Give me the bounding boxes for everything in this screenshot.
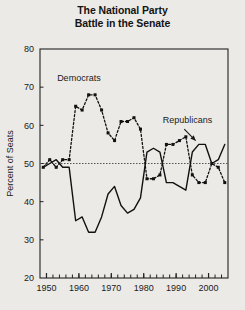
series-marker-democrats — [68, 158, 71, 161]
series-marker-democrats — [133, 116, 136, 119]
republicans-label: Republicans — [163, 115, 213, 125]
series-marker-democrats — [55, 166, 58, 169]
series-marker-democrats — [158, 173, 161, 176]
series-marker-democrats — [87, 93, 90, 96]
series-marker-democrats — [165, 143, 168, 146]
y-tick-label: 40 — [24, 197, 34, 207]
y-tick-label: 70 — [24, 82, 34, 92]
y-tick-label: 30 — [24, 235, 34, 245]
chart-title-line2: Battle in the Senate — [0, 17, 245, 30]
series-marker-democrats — [197, 181, 200, 184]
y-tick-label: 20 — [24, 273, 34, 283]
series-marker-democrats — [139, 128, 142, 131]
series-marker-democrats — [74, 105, 77, 108]
chart-title: The National Party Battle in the Senate — [0, 4, 245, 30]
chart-title-line1: The National Party — [0, 4, 245, 17]
x-tick-label: 1980 — [134, 283, 154, 293]
y-tick-label: 50 — [24, 159, 34, 169]
series-marker-democrats — [145, 177, 148, 180]
line-chart-plot: 20304050607080195019601970198019902000Pe… — [0, 0, 245, 310]
y-tick-label: 80 — [24, 44, 34, 54]
series-marker-democrats — [223, 181, 226, 184]
series-marker-democrats — [126, 120, 129, 123]
series-marker-democrats — [120, 120, 123, 123]
series-marker-democrats — [204, 181, 207, 184]
series-line-democrats — [43, 95, 225, 183]
y-tick-label: 60 — [24, 121, 34, 131]
x-tick-label: 1990 — [166, 283, 186, 293]
series-marker-democrats — [107, 131, 110, 134]
series-marker-democrats — [191, 173, 194, 176]
chart-figure: The National Party Battle in the Senate … — [0, 0, 245, 310]
democrats-label: Democrats — [57, 73, 101, 83]
series-marker-democrats — [48, 158, 51, 161]
series-marker-democrats — [152, 177, 155, 180]
series-marker-democrats — [100, 109, 103, 112]
y-axis-title: Percent of Seats — [5, 130, 15, 197]
series-marker-democrats — [178, 139, 181, 142]
series-marker-democrats — [184, 135, 187, 138]
series-marker-democrats — [113, 139, 116, 142]
x-tick-label: 2000 — [199, 283, 219, 293]
x-tick-label: 1970 — [101, 283, 121, 293]
series-marker-democrats — [61, 158, 64, 161]
x-tick-label: 1950 — [36, 283, 56, 293]
x-tick-label: 1960 — [69, 283, 89, 293]
series-marker-democrats — [94, 93, 97, 96]
series-marker-democrats — [171, 143, 174, 146]
series-line-republicans — [43, 144, 225, 232]
series-marker-democrats — [81, 109, 84, 112]
series-marker-democrats — [217, 166, 220, 169]
